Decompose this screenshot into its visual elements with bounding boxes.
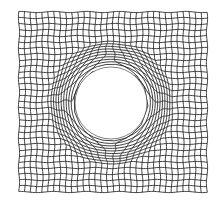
mesh-line [19,41,207,42]
plate-with-hole-mesh [0,0,222,204]
central-hole [75,67,147,139]
mesh-figure: Structured quadrilateral mesh of a squar… [0,0,222,204]
mesh-line [19,23,207,24]
mesh-line [19,11,207,12]
mesh-line [19,173,207,174]
mesh-line [19,191,207,192]
